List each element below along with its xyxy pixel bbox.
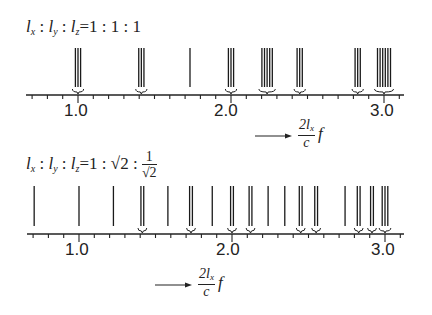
axis-label-sub: x	[310, 123, 314, 133]
tick-label-1.0-bottom: 1.0	[65, 240, 89, 260]
axis-label-sub: x	[210, 272, 214, 282]
degeneracy-brace	[136, 89, 147, 94]
tick-label-3.0-top: 3.0	[370, 101, 394, 121]
degeneracy-brace	[352, 89, 363, 94]
degeneracy-brace	[246, 228, 255, 233]
arrow-head-icon	[185, 283, 192, 288]
axis-label-numerator: 2l	[299, 117, 310, 132]
axis-label-fraction: 2lxc	[298, 118, 315, 150]
axis-label-variable: f	[318, 124, 323, 143]
axis-label-numerator: 2l	[199, 266, 210, 281]
degeneracy-brace	[228, 228, 237, 233]
degeneracy-brace	[375, 89, 394, 94]
degeneracy-brace	[312, 228, 321, 233]
degeneracy-brace	[368, 228, 377, 233]
axis-label-variable: f	[218, 273, 223, 292]
axis-label-top: 2lxcf	[298, 118, 323, 150]
degeneracy-brace	[187, 228, 196, 233]
degeneracy-brace	[225, 89, 236, 94]
tick-label-3.0-bottom: 3.0	[371, 240, 395, 260]
axis-label-denominator: c	[298, 136, 315, 150]
arrow-head-icon	[285, 134, 292, 139]
degeneracy-brace	[354, 228, 363, 233]
degeneracy-brace	[296, 228, 305, 233]
tick-label-2.0-bottom: 2.0	[216, 240, 240, 260]
degeneracy-brace	[72, 89, 83, 94]
axis-label-bottom: 2lxcf	[198, 267, 223, 299]
degeneracy-brace	[379, 228, 391, 233]
axis-label-denominator: c	[198, 285, 215, 299]
tick-label-2.0-top: 2.0	[214, 101, 238, 121]
degeneracy-brace	[259, 89, 275, 94]
degeneracy-brace	[138, 228, 147, 233]
tick-label-1.0-top: 1.0	[64, 101, 88, 121]
degeneracy-brace	[294, 89, 305, 94]
axis-label-fraction: 2lxc	[198, 267, 215, 299]
